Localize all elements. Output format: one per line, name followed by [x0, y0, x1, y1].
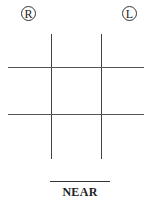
grid-horizontal-line-1 [8, 67, 144, 68]
marker-right-label: R [24, 8, 32, 20]
grid-vertical-line-2 [101, 34, 102, 159]
caption-divider [50, 181, 110, 182]
marker-left-label: L [126, 8, 133, 20]
grid-vertical-line-1 [51, 34, 52, 159]
grid-horizontal-line-2 [8, 114, 144, 115]
caption-label: NEAR [50, 185, 110, 200]
marker-left: L [122, 6, 137, 21]
marker-right: R [21, 6, 36, 21]
